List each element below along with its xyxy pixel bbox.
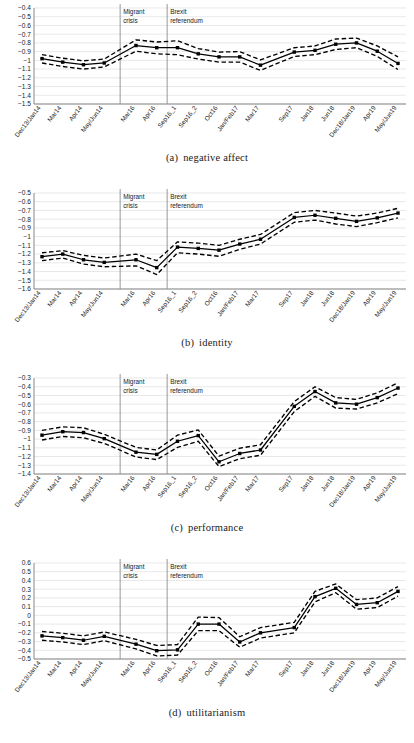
y-axis-tick-label: −0.7: [18, 207, 31, 214]
estimate-line: [42, 213, 398, 268]
y-axis-tick-label: −0.4: [18, 647, 31, 654]
y-axis-tick-label: −0.6: [18, 401, 31, 408]
x-axis-tick-label: Apr19: [361, 104, 378, 123]
x-axis-tick-label: Oct16: [203, 104, 219, 122]
figure-sheet: −0.4−0.5−0.6−0.7−0.8−0.9−1−1.1−1.2−1.3−1…: [0, 0, 414, 743]
y-axis-tick-label: −0.5: [18, 392, 31, 399]
y-axis-tick-label: −1.4: [18, 92, 31, 99]
y-axis-tick-label: 0.1: [22, 603, 31, 610]
x-axis-tick-label: Mar17: [244, 289, 261, 308]
caption-d-title: utilitarianism: [187, 707, 246, 718]
chart-b: −0.5−0.6−0.7−0.8−0.9−1−1.1−1.2−1.3−1.4−1…: [0, 185, 414, 337]
x-axis-tick-label: Oct16: [203, 659, 219, 677]
caption-a-label: (a): [166, 152, 178, 163]
x-axis-tick-label: Apr14: [67, 104, 84, 123]
data-point: [197, 622, 200, 625]
panel-a: −0.4−0.5−0.6−0.7−0.8−0.9−1−1.1−1.2−1.3−1…: [0, 0, 414, 185]
x-axis-tick-label: Sep17: [277, 104, 295, 124]
data-point: [82, 431, 85, 434]
data-point: [155, 649, 158, 652]
x-axis-tick-label: Sep17: [277, 289, 295, 309]
caption-d: (d)utilitarianism: [0, 707, 414, 718]
data-point: [313, 214, 316, 217]
y-axis-tick-label: 0.2: [22, 594, 31, 601]
estimate-line: [42, 43, 398, 65]
x-axis-tick-label: Dec13/Jan14: [13, 104, 42, 138]
y-axis-tick-label: −0.7: [18, 31, 31, 38]
data-point: [355, 402, 358, 405]
caption-b-label: (b): [181, 337, 194, 348]
y-axis-tick-label: 0.6: [22, 559, 31, 566]
data-point: [197, 434, 200, 437]
data-point: [61, 430, 64, 433]
x-axis-tick-label: Mar17: [244, 104, 261, 123]
annotation-label-brexit-referendum: Brexit: [170, 8, 187, 15]
confidence-band-ci_lower: [42, 218, 398, 275]
x-axis-tick-label: Apr14: [67, 659, 84, 678]
plot-d: 0.60.50.40.30.20.10−0.1−0.2−0.3−0.4−0.5M…: [0, 555, 414, 707]
annotation-label-brexit-referendum: Brexit: [170, 563, 187, 570]
data-point: [155, 266, 158, 269]
caption-d-label: (d): [169, 707, 182, 718]
caption-b-title: identity: [199, 337, 233, 348]
x-axis-tick-label: Jan18: [299, 659, 316, 677]
y-axis-tick-label: −0.5: [18, 13, 31, 20]
data-point: [355, 220, 358, 223]
y-axis-tick-label: −1: [23, 57, 31, 64]
data-point: [217, 622, 220, 625]
annotation-label-migrant-crisis-line2: crisis: [123, 202, 138, 209]
x-axis-tick-label: May/Jun14: [79, 104, 105, 134]
plot-a: −0.4−0.5−0.6−0.7−0.8−0.9−1−1.1−1.2−1.3−1…: [0, 0, 414, 152]
x-axis-tick-label: Oct16: [203, 289, 219, 307]
x-axis-tick-label: Apr19: [361, 659, 378, 678]
chart-a: −0.4−0.5−0.6−0.7−0.8−0.9−1−1.1−1.2−1.3−1…: [0, 0, 414, 152]
y-axis-tick-label: −0.9: [18, 427, 31, 434]
data-point: [334, 587, 337, 590]
data-point: [313, 390, 316, 393]
data-point: [259, 631, 262, 634]
y-axis-tick-label: 0.3: [22, 586, 31, 593]
data-point: [40, 634, 43, 637]
data-point: [396, 62, 399, 65]
data-point: [293, 626, 296, 629]
data-point: [396, 386, 399, 389]
x-axis-tick-label: Sep17: [277, 659, 295, 679]
x-axis-tick-label: Jun18: [319, 104, 336, 122]
y-axis-tick-label: −1.6: [18, 285, 31, 292]
y-axis-tick-label: −0.8: [18, 39, 31, 46]
x-axis-tick-label: Apr19: [361, 289, 378, 308]
x-axis-tick-label: Jan/Feb17: [215, 289, 239, 317]
annotation-label-brexit-referendum-line2: referendum: [170, 202, 203, 209]
x-axis-tick-label: Mar17: [244, 659, 261, 678]
y-axis-tick-label: 0.4: [22, 577, 31, 584]
x-axis-tick-label: Jan18: [299, 104, 316, 122]
annotation-label-migrant-crisis: Migrant: [123, 563, 145, 571]
y-axis-tick-label: −1.4: [18, 470, 31, 477]
y-axis-tick-label: −1.1: [18, 65, 31, 72]
x-axis-tick-label: May/Jun14: [79, 289, 105, 319]
x-axis-tick-label: Jun18: [319, 659, 336, 677]
x-axis-tick-label: Mar14: [46, 474, 63, 493]
data-point: [259, 448, 262, 451]
data-point: [155, 46, 158, 49]
data-point: [61, 252, 64, 255]
x-axis-tick-label: Mar14: [46, 659, 63, 678]
y-axis-tick-label: −1: [23, 233, 31, 240]
y-axis-tick-label: −0.4: [18, 4, 31, 11]
y-axis-tick-label: −0.7: [18, 409, 31, 416]
data-point: [334, 401, 337, 404]
y-axis-tick-label: −1.2: [18, 250, 31, 257]
x-axis-tick-label: May/Jun19: [373, 659, 399, 689]
data-point: [176, 440, 179, 443]
annotation-label-migrant-crisis-line2: crisis: [123, 572, 138, 579]
data-point: [103, 261, 106, 264]
x-axis-tick-label: Mar14: [46, 289, 63, 308]
caption-c: (c)performance: [0, 522, 414, 533]
chart-d: 0.60.50.40.30.20.10−0.1−0.2−0.3−0.4−0.5M…: [0, 555, 414, 707]
y-axis-tick-label: −0.9: [18, 48, 31, 55]
data-point: [176, 46, 179, 49]
panel-b: −0.5−0.6−0.7−0.8−0.9−1−1.1−1.2−1.3−1.4−1…: [0, 185, 414, 370]
y-axis-tick-label: −0.6: [18, 22, 31, 29]
x-axis-tick-label: May/Jun14: [79, 474, 105, 504]
y-axis-tick-label: −0.5: [18, 189, 31, 196]
